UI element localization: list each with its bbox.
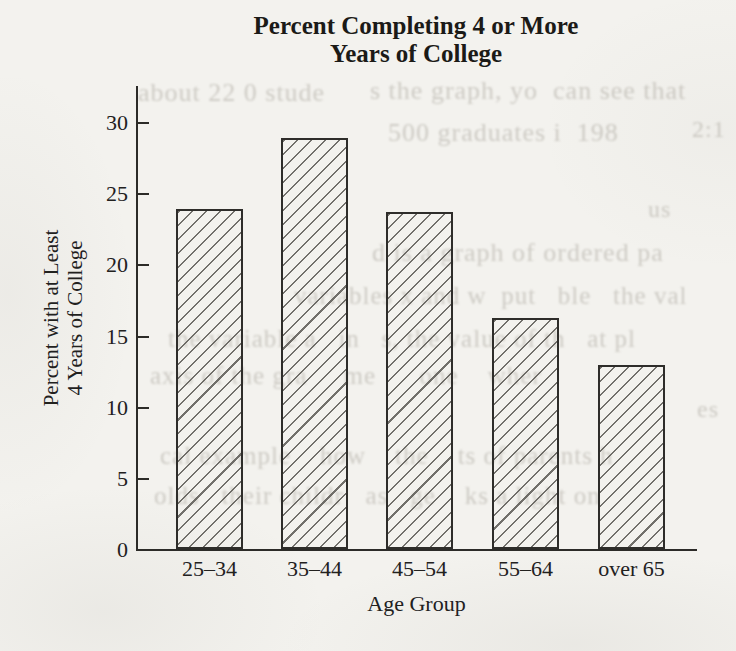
x-tick-label-45–54: 45–54	[365, 556, 475, 582]
y-tick-label-25: 25	[106, 181, 128, 207]
chart-title-line2: Years of College	[136, 40, 696, 68]
y-tick-mark-20	[138, 264, 149, 266]
bar-chart: Percent Completing 4 or More Years of Co…	[0, 0, 736, 651]
chart-title-line1: Percent Completing 4 or More	[136, 12, 696, 40]
y-tick-label-15: 15	[106, 324, 128, 350]
bar-55–64	[492, 318, 559, 549]
y-tick-mark-25	[138, 193, 149, 195]
y-tick-mark-10	[138, 407, 149, 409]
y-tick-label-10: 10	[106, 395, 128, 421]
bar-45–54	[386, 212, 453, 549]
x-axis-label: Age Group	[136, 591, 697, 617]
y-axis-label-line2: 4 Years of College	[63, 230, 87, 407]
y-tick-mark-15	[138, 336, 149, 338]
y-tick-mark-5	[138, 478, 149, 480]
x-tick-label-25–34: 25–34	[155, 556, 265, 582]
y-tick-label-5: 5	[117, 466, 128, 492]
bar-35–44	[281, 138, 348, 549]
x-axis-line	[136, 549, 697, 551]
x-tick-label-over 65: over 65	[577, 556, 687, 582]
y-tick-label-0: 0	[117, 537, 128, 563]
chart-title: Percent Completing 4 or More Years of Co…	[136, 12, 696, 68]
bar-25–34	[176, 209, 243, 549]
scanned-page: about 22 0 studes the graph, yo can see …	[0, 0, 736, 651]
y-axis-line	[136, 86, 138, 551]
y-tick-label-20: 20	[106, 252, 128, 278]
y-tick-label-30: 30	[106, 110, 128, 136]
x-tick-label-55–64: 55–64	[471, 556, 581, 582]
bar-over 65	[598, 365, 665, 549]
x-tick-label-35–44: 35–44	[260, 556, 370, 582]
y-tick-mark-30	[138, 122, 149, 124]
y-axis-label: Percent with at Least 4 Years of College	[39, 230, 87, 407]
y-axis-label-line1: Percent with at Least	[39, 230, 63, 407]
